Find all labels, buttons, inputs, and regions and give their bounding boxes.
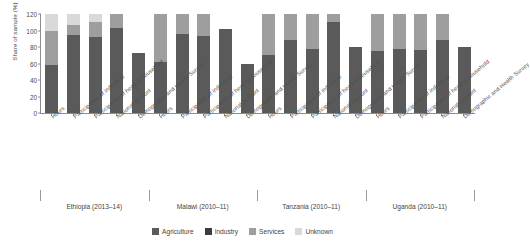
stacked-bar[interactable]: [67, 14, 80, 113]
bar-segment-services: [371, 14, 384, 51]
bar-segment-services: [45, 31, 58, 65]
legend-item-industry[interactable]: Industry: [205, 228, 238, 235]
legend-label: Agriculture: [162, 228, 194, 235]
bar-segment-agriculture: [67, 35, 80, 113]
legend-label: Industry: [215, 228, 238, 235]
legend-item-unknown[interactable]: Unknown: [295, 228, 333, 235]
bar-segment-services: [197, 14, 210, 36]
bar-segment-services: [327, 14, 340, 22]
legend-label: Services: [259, 228, 284, 235]
y-axis-title: Share of sample (%): [11, 0, 18, 77]
bar-segment-unknown: [45, 14, 58, 31]
legend-swatch-agriculture: [152, 228, 159, 235]
bar-slot: [41, 14, 63, 113]
group-name-label: Malawi (2010–11): [177, 203, 229, 210]
group-axis: Ethiopia (2013–14)Malawi (2010–11)Tanzan…: [40, 196, 474, 218]
group-name-label: Tanzania (2010–11): [282, 203, 340, 210]
stacked-bar[interactable]: [45, 14, 58, 113]
legend-label: Unknown: [305, 228, 333, 235]
legend-item-agriculture[interactable]: Agriculture: [152, 228, 194, 235]
bar-segment-services: [436, 14, 449, 40]
chart-legend: AgricultureIndustryServicesUnknown: [0, 228, 485, 235]
bar-slot: [280, 14, 302, 113]
bar-segment-services: [262, 14, 275, 55]
stacked-bar[interactable]: [393, 14, 406, 113]
legend-swatch-industry: [205, 228, 212, 235]
bar-segment-services: [154, 14, 167, 62]
bar-segment-services: [414, 14, 427, 50]
group-separator: [149, 190, 150, 201]
bar-segment-services: [89, 22, 102, 37]
bar-slot: [63, 14, 85, 113]
bar-segment-services: [306, 14, 319, 49]
bar-segment-unknown: [89, 14, 102, 22]
bar-segment-services: [284, 14, 297, 40]
bar-segment-services: [67, 25, 80, 35]
group-separator: [257, 190, 258, 201]
x-axis-category-labels: HoursParticipation of individualParticip…: [40, 115, 474, 195]
bar-segment-services: [176, 14, 189, 34]
bar-segment-unknown: [67, 14, 80, 25]
bar-segment-services: [393, 14, 406, 49]
group-name-label: Ethiopia (2013–14): [66, 203, 122, 210]
legend-item-services[interactable]: Services: [249, 228, 284, 235]
group-separator: [474, 190, 475, 201]
group-separator: [366, 190, 367, 201]
bar-groups: [41, 14, 475, 113]
stacked-bar[interactable]: [284, 14, 297, 113]
plot-area: 020406080100120: [40, 14, 475, 114]
bar-slot: [171, 14, 193, 113]
legend-swatch-unknown: [295, 228, 302, 235]
bar-segment-agriculture: [45, 65, 58, 113]
stacked-bar[interactable]: [176, 14, 189, 113]
group-name-label: Uganda (2010–11): [392, 203, 447, 210]
group-separator: [40, 190, 41, 201]
bar-slot: [388, 14, 410, 113]
legend-swatch-services: [249, 228, 256, 235]
bar-segment-services: [110, 14, 123, 28]
